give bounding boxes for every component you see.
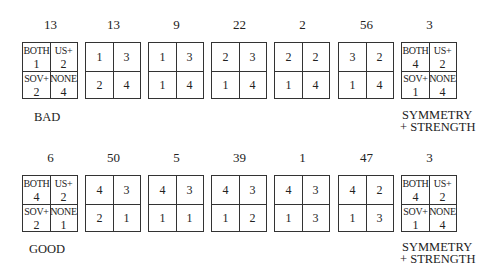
- box-count: 1: [274, 150, 331, 166]
- row-caption: GOOD: [29, 243, 65, 256]
- matrix-cell-none: 4: [239, 71, 266, 99]
- matrix-box: BOTH4US+2SOV+1NONE4: [401, 175, 457, 232]
- cell-value: 4: [23, 190, 50, 204]
- cell-label: SOV+: [402, 73, 429, 85]
- cell-value: 1: [23, 57, 50, 71]
- cell-value: 4: [302, 71, 329, 99]
- matrix-box: 2214: [274, 42, 330, 99]
- matrix-cell-both: 1: [86, 43, 113, 71]
- matrix-cell-both: 4: [212, 176, 239, 204]
- cell-value: 3: [239, 176, 266, 204]
- matrix-cell-both: 4: [86, 176, 113, 204]
- box-count: 13: [85, 17, 142, 33]
- box-count: 3: [401, 150, 458, 166]
- cell-value: 4: [366, 71, 393, 99]
- matrix-cell-both: 4: [339, 176, 366, 204]
- cell-value: 2: [212, 43, 239, 71]
- cell-label: BOTH: [402, 45, 429, 57]
- cell-value: 4: [402, 190, 429, 204]
- cell-value: 1: [339, 204, 366, 232]
- matrix-cell-sov: SOV+2: [23, 204, 50, 232]
- cell-value: 4: [50, 85, 77, 99]
- cell-value: 1: [50, 218, 77, 232]
- matrix-cell-us: 2: [302, 43, 329, 71]
- cell-value: 2: [366, 176, 393, 204]
- cell-value: 1: [339, 71, 366, 99]
- cell-value: 4: [149, 176, 176, 204]
- box-count: 3: [401, 17, 458, 33]
- cell-label: SOV+: [402, 206, 429, 218]
- cell-label: BOTH: [23, 178, 50, 190]
- cell-label: US+: [50, 45, 77, 57]
- cell-value: 3: [176, 43, 203, 71]
- cell-label: NONE: [429, 206, 456, 218]
- matrix-cell-us: US+2: [50, 43, 77, 71]
- matrix-cell-sov: SOV+2: [23, 71, 50, 99]
- cell-label: US+: [429, 45, 456, 57]
- matrix-box: 1324: [85, 42, 141, 99]
- cell-value: 2: [86, 71, 113, 99]
- cell-label: NONE: [50, 73, 77, 85]
- cell-label: NONE: [50, 206, 77, 218]
- matrix-cell-us: 3: [176, 176, 203, 204]
- matrix-box: 1314: [148, 42, 204, 99]
- matrix-cell-sov: 1: [339, 204, 366, 232]
- matrix-cell-none: 4: [113, 71, 140, 99]
- box-count: 6: [22, 150, 79, 166]
- cell-value: 1: [176, 204, 203, 232]
- cell-value: 1: [402, 218, 429, 232]
- matrix-box: 4321: [85, 175, 141, 232]
- matrix-cell-sov: 1: [339, 71, 366, 99]
- matrix-cell-us: US+2: [429, 43, 456, 71]
- cell-value: 4: [275, 176, 302, 204]
- matrix-box: BOTH1US+2SOV+2NONE4: [22, 42, 78, 99]
- matrix-cell-us: 2: [366, 176, 393, 204]
- cell-label: BOTH: [402, 178, 429, 190]
- cell-value: 4: [239, 71, 266, 99]
- cell-value: 2: [429, 190, 456, 204]
- matrix-cell-both: 2: [275, 43, 302, 71]
- matrix-box: BOTH4US+2SOV+2NONE1: [22, 175, 78, 232]
- matrix-cell-us: 3: [302, 176, 329, 204]
- matrix-box: 4213: [338, 175, 394, 232]
- matrix-cell-sov: 1: [149, 204, 176, 232]
- cell-value: 3: [113, 176, 140, 204]
- matrix-cell-sov: 2: [86, 204, 113, 232]
- matrix-box: 2314: [211, 42, 267, 99]
- cell-label: US+: [429, 178, 456, 190]
- matrix-cell-sov: 1: [212, 71, 239, 99]
- matrix-cell-us: 3: [239, 176, 266, 204]
- cell-value: 2: [302, 43, 329, 71]
- cell-value: 1: [149, 204, 176, 232]
- matrix-cell-none: 4: [366, 71, 393, 99]
- matrix-cell-sov: SOV+1: [402, 71, 429, 99]
- matrix-box: BOTH4US+2SOV+1NONE4: [401, 42, 457, 99]
- cell-value: 3: [113, 43, 140, 71]
- matrix-cell-sov: 1: [212, 204, 239, 232]
- cell-value: 1: [275, 71, 302, 99]
- box-count: 2: [274, 17, 331, 33]
- matrix-cell-us: 3: [113, 43, 140, 71]
- cell-value: 1: [86, 43, 113, 71]
- box-count: 9: [148, 17, 205, 33]
- cell-value: 3: [176, 176, 203, 204]
- matrix-cell-both: BOTH4: [402, 176, 429, 204]
- matrix-cell-none: 4: [302, 71, 329, 99]
- cell-value: 2: [366, 43, 393, 71]
- cell-value: 2: [50, 57, 77, 71]
- cell-value: 4: [86, 176, 113, 204]
- cell-value: 1: [149, 71, 176, 99]
- cell-value: 4: [429, 85, 456, 99]
- matrix-cell-none: 2: [239, 204, 266, 232]
- matrix-cell-sov: 1: [149, 71, 176, 99]
- cell-value: 1: [212, 71, 239, 99]
- cell-value: 3: [366, 204, 393, 232]
- matrix-cell-both: 4: [149, 176, 176, 204]
- cell-value: 2: [23, 85, 50, 99]
- cell-value: 4: [176, 71, 203, 99]
- cell-value: 4: [113, 71, 140, 99]
- matrix-cell-both: 3: [339, 43, 366, 71]
- matrix-cell-none: 1: [113, 204, 140, 232]
- cell-value: 4: [339, 176, 366, 204]
- cell-label: US+: [50, 178, 77, 190]
